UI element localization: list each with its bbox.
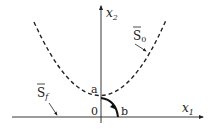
x2-axis-label: x2 bbox=[106, 6, 118, 22]
diagram-svg: x2 x1 S0 Sf a 0 b bbox=[0, 0, 215, 132]
phase-plane-diagram: x2 x1 S0 Sf a 0 b bbox=[0, 0, 215, 132]
sf-pointer-arrow bbox=[49, 103, 57, 115]
point-b-label: b bbox=[121, 105, 128, 118]
x1-axis-label: x1 bbox=[182, 101, 194, 117]
s0-label: S0 bbox=[133, 29, 146, 44]
point-a-label: a bbox=[91, 83, 98, 96]
sf-label: Sf bbox=[37, 86, 50, 101]
s0-pointer-arrow bbox=[135, 44, 146, 51]
trajectory-arc-a-to-b bbox=[101, 98, 118, 117]
origin-label: 0 bbox=[91, 105, 98, 118]
s0-dashed-parabola bbox=[34, 20, 166, 96]
